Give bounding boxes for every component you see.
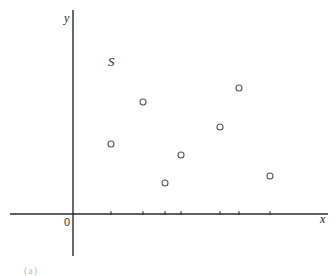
data-point-circle <box>267 173 273 179</box>
figure-caption-fragment: (a) <box>24 266 38 276</box>
data-point-circle <box>217 124 223 130</box>
data-point-circle <box>178 152 184 158</box>
data-point-circle <box>140 99 146 105</box>
origin-label: 0 <box>64 217 70 228</box>
data-point-circle <box>236 85 242 91</box>
data-points <box>108 85 273 186</box>
data-point-circle <box>162 180 168 186</box>
x-axis-label: x <box>320 213 325 225</box>
data-point-circle <box>108 141 114 147</box>
y-axis-label: y <box>64 12 69 24</box>
set-label-s: S <box>108 55 115 68</box>
